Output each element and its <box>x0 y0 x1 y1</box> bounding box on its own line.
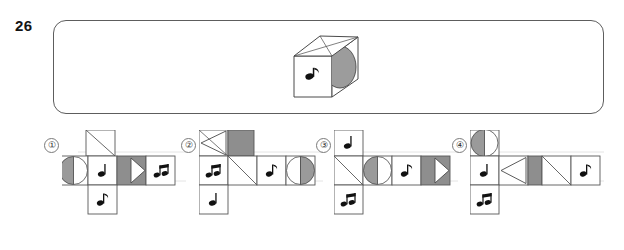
cell-note-eighth <box>392 156 421 185</box>
cell-gray-square <box>228 130 254 156</box>
cell-diagonal-tl-br <box>228 156 257 185</box>
cube-svg <box>285 27 365 111</box>
cell-note-eighth <box>257 156 286 185</box>
cell-note-quarter <box>334 130 363 156</box>
option-4[interactable]: ④ <box>452 130 612 222</box>
cell-gray-square-triangle <box>117 156 146 185</box>
cell-circle-left-gray <box>363 156 392 185</box>
cell-circle-left-gray <box>62 156 88 185</box>
cell-note-quarter <box>470 156 499 185</box>
cell-triangle-left <box>499 156 528 185</box>
cell-note-beamed <box>334 185 363 214</box>
option-2-badge: ② <box>181 138 196 153</box>
cell-note-beamed <box>146 156 175 185</box>
option-1-badge: ① <box>44 138 59 153</box>
worksheet-page: 26 <box>0 0 624 250</box>
cell-diagonal-tr-bl <box>334 156 363 185</box>
cell-diagonal-tr-bl <box>542 156 571 185</box>
cell-note-beamed <box>470 185 499 214</box>
cell-note-eighth <box>88 185 117 214</box>
cell-note-eighth <box>571 156 600 185</box>
cube-figure <box>285 27 365 111</box>
cell-gray-square-triangle <box>421 156 450 185</box>
cell-note-beamed <box>199 156 228 185</box>
cell-triangle-left <box>199 130 228 156</box>
cell-note-quarter <box>199 185 228 214</box>
cell-note-quarter <box>88 156 117 185</box>
option-4-badge: ④ <box>452 138 467 153</box>
cell-gray-square <box>528 156 542 185</box>
question-number: 26 <box>15 17 33 34</box>
cell-circle-left-gray <box>470 130 499 157</box>
options-row: ① <box>0 130 624 222</box>
option-3-badge: ③ <box>316 138 331 153</box>
option-1[interactable]: ① <box>44 130 204 222</box>
option-4-net <box>470 130 610 222</box>
cell-circle-right-gray <box>286 156 315 185</box>
cell-diagonal-tl-br <box>86 130 115 156</box>
